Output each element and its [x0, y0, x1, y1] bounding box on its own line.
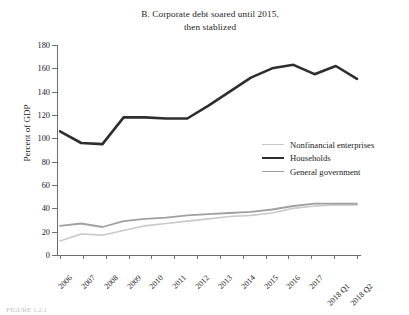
chart-title-line-1: B. Corporate debt soared until 2015, — [60, 8, 360, 21]
y-tick-label: 120 — [37, 111, 50, 120]
y-axis-label: Percent of GDP — [22, 78, 32, 188]
legend-swatch-icon — [262, 171, 284, 172]
legend-swatch-icon — [262, 157, 284, 159]
x-tick-label: 2018 Q2 — [368, 262, 394, 288]
series-line-general-government — [60, 204, 357, 227]
figure-caption: FIGURE 1.2.1 — [6, 306, 47, 314]
x-tick-label: 2008 — [113, 262, 131, 280]
y-tick-label: 0 — [46, 251, 50, 260]
y-tick-label: 140 — [37, 87, 50, 96]
legend-item: Households — [262, 152, 374, 166]
chart-legend: Nonfinancial enterprisesHouseholdsGenera… — [262, 138, 374, 179]
legend-item: Nonfinancial enterprises — [262, 138, 374, 152]
x-tick-label: 2011 — [182, 262, 199, 279]
y-tick-label: 160 — [37, 64, 50, 73]
y-tick-label: 180 — [37, 41, 50, 50]
legend-label: General government — [290, 167, 360, 177]
y-tick-label: 60 — [42, 181, 50, 190]
x-tick-label: 2010 — [159, 262, 177, 280]
legend-label: Nonfinancial enterprises — [290, 140, 374, 150]
chart-title-line-2: then stablized — [60, 21, 360, 34]
x-tick-label: 2017 — [319, 262, 337, 280]
x-tick-label: 2012 — [205, 262, 223, 280]
legend-item: General government — [262, 165, 374, 179]
x-tick-label: 2009 — [136, 262, 154, 280]
y-tick-label: 20 — [42, 227, 50, 236]
x-tick-label: 2006 — [68, 262, 86, 280]
chart-title: B. Corporate debt soared until 2015, the… — [60, 8, 360, 33]
y-tick-label: 40 — [42, 204, 50, 213]
series-line-nonfinancial-enterprises — [60, 205, 357, 241]
legend-label: Households — [290, 153, 331, 163]
figure-panel-b: B. Corporate debt soared until 2015, the… — [0, 0, 409, 315]
x-tick-label: 2007 — [91, 262, 109, 280]
x-tick-label: 2013 — [228, 262, 246, 280]
x-tick-label: 2014 — [250, 262, 268, 280]
y-tick-label: 100 — [37, 134, 50, 143]
y-tick-label: 80 — [42, 157, 50, 166]
x-tick-label: 2015 — [273, 262, 291, 280]
legend-swatch-icon — [262, 144, 284, 145]
x-tick-label: 2016 — [296, 262, 314, 280]
series-line-households — [60, 65, 357, 144]
